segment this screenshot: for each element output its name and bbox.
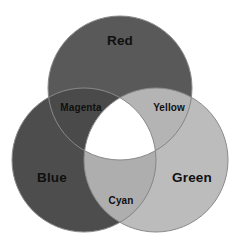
set-label-red: Red [107, 34, 133, 48]
venn-diagram-figure: Red Blue Green Magenta Yellow Cyan [0, 0, 243, 250]
intersection-label-yellow: Yellow [153, 103, 185, 113]
set-label-green: Green [172, 171, 212, 185]
set-label-blue: Blue [37, 171, 67, 185]
intersection-label-magenta: Magenta [60, 103, 101, 113]
intersection-label-cyan: Cyan [109, 196, 134, 206]
